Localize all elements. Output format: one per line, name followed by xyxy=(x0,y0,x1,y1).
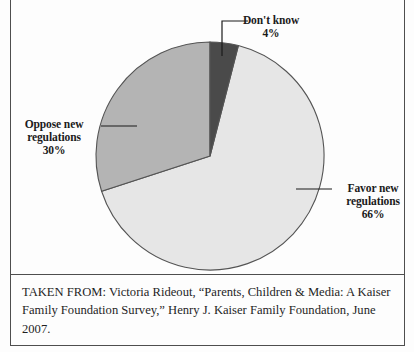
pie-chart-figure: Don't know 4% Oppose new regulations 30%… xyxy=(0,0,414,352)
pie-label-oppose-line1: Oppose new xyxy=(25,118,84,130)
pie-label-oppose-line2: regulations xyxy=(27,131,81,143)
pie-label-favor-new-regulations: Favor new regulations 66% xyxy=(336,182,410,222)
pie-label-dont-know-value: 4% xyxy=(228,27,314,40)
pie-label-dont-know-text: Don't know xyxy=(243,14,299,26)
pie-label-favor-value: 66% xyxy=(336,208,410,221)
pie-label-oppose-new-regulations: Oppose new regulations 30% xyxy=(8,118,100,158)
source-caption: TAKEN FROM: Victoria Rideout, “Parents, … xyxy=(22,283,396,338)
pie-label-dont-know: Don't know 4% xyxy=(228,14,314,40)
caption-divider xyxy=(10,274,405,275)
pie-label-favor-line2: regulations xyxy=(346,195,400,207)
pie-label-favor-line1: Favor new xyxy=(348,182,399,194)
pie-label-oppose-value: 30% xyxy=(8,144,100,157)
